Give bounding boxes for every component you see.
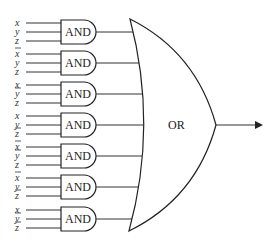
and-gate: xyzAND xyxy=(14,17,133,46)
and-gate-label: AND xyxy=(65,149,91,163)
and-gate-label: AND xyxy=(65,87,91,101)
and-gates-group: xyzANDxyzANDxyzANDxyzANDxyzANDxyzANDxyzA… xyxy=(14,17,144,233)
and-gate: xyzAND xyxy=(14,79,143,108)
input-label: z xyxy=(14,190,19,201)
input-label: z xyxy=(14,128,19,139)
input-label: z xyxy=(14,159,19,170)
and-gate: xyzAND xyxy=(14,141,142,170)
input-label: z xyxy=(14,35,19,46)
and-gate-label: AND xyxy=(65,25,91,39)
arrow-right-icon xyxy=(255,121,263,129)
and-gate-label: AND xyxy=(65,180,91,194)
input-label: z xyxy=(14,66,19,77)
and-gate-label: AND xyxy=(65,118,91,132)
logic-circuit-diagram: xyzANDxyzANDxyzANDxyzANDxyzANDxyzANDxyzA… xyxy=(0,0,273,243)
and-gate: xyzAND xyxy=(14,110,144,139)
and-gate: xyzAND xyxy=(14,204,132,233)
input-label: z xyxy=(14,222,19,233)
input-label: z xyxy=(14,97,19,108)
and-gate: xyzAND xyxy=(14,48,139,77)
and-gate-label: AND xyxy=(65,56,91,70)
and-gate-label: AND xyxy=(65,212,91,226)
or-gate-label: OR xyxy=(168,118,185,132)
and-gate: xyzAND xyxy=(14,172,139,201)
output-arrow xyxy=(216,121,263,129)
